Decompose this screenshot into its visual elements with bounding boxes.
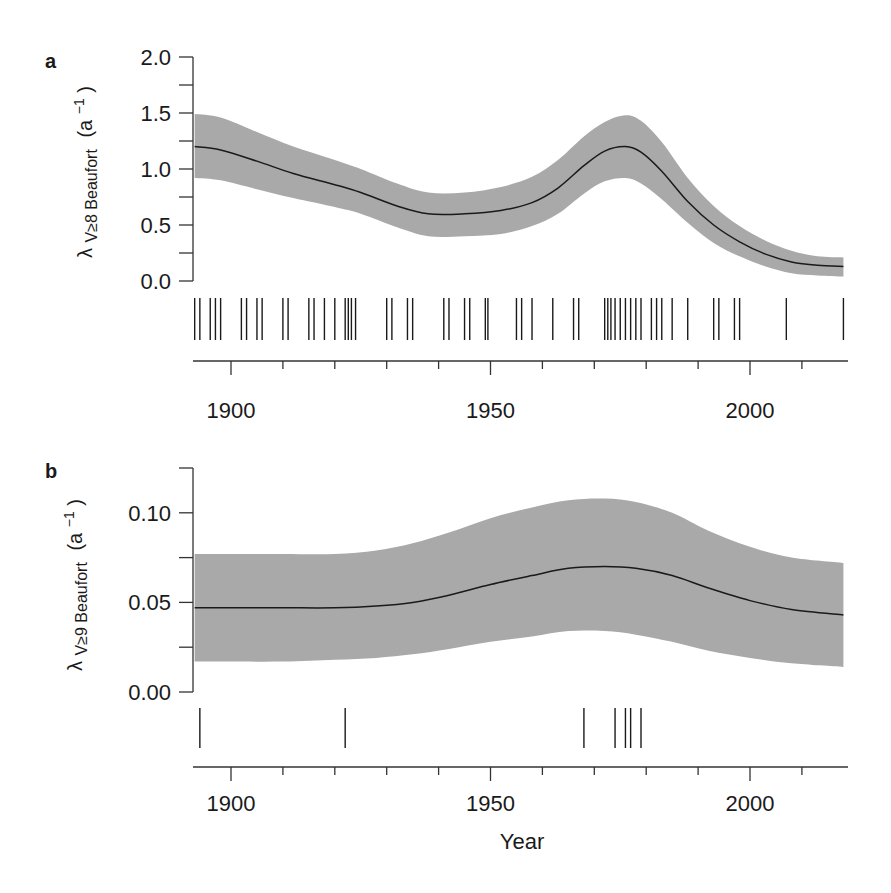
panel-a-y-axis-label: λ V≥8 Beaufort (a −1 ) xyxy=(66,86,101,258)
panel-a: a λ V≥8 Beaufort (a −1 ) 0.00.51.01.52.0… xyxy=(45,45,848,423)
figure: a λ V≥8 Beaufort (a −1 ) 0.00.51.01.52.0… xyxy=(0,0,891,893)
panel-b: b λ V≥9 Beaufort (a −1 ) 0.000.050.10190… xyxy=(45,460,848,854)
ylabel-units-close: ) xyxy=(64,499,86,506)
x-tick-label: 2000 xyxy=(726,791,775,816)
x-tick-label: 1900 xyxy=(207,791,256,816)
panel-b-y-axis-label: λ V≥9 Beaufort (a −1 ) xyxy=(56,499,91,671)
event-rug xyxy=(200,708,641,748)
x-tick-label: 1900 xyxy=(207,398,256,423)
panel-b-label: b xyxy=(45,460,57,482)
y-axis: 0.000.050.10 xyxy=(128,468,193,705)
x-axis-title: Year xyxy=(500,829,544,854)
x-axis: 190019502000 xyxy=(193,361,848,423)
event-rug xyxy=(195,298,844,340)
y-tick-label: 1.0 xyxy=(140,157,171,182)
y-tick-label: 0.05 xyxy=(128,590,171,615)
panel-a-label: a xyxy=(45,50,57,72)
confidence-band xyxy=(195,498,844,667)
ylabel-subscript: V≥9 Beaufort xyxy=(73,562,90,656)
panel-b-plot-area: 0.000.050.10190019502000 xyxy=(128,468,848,816)
x-axis: 190019502000 xyxy=(193,767,848,816)
ylabel-units-exp: −1 xyxy=(71,98,87,114)
x-tick-label: 2000 xyxy=(726,398,775,423)
svg-text:λ V≥9 Beaufort: λ V≥9 Beaufort (a −1 ) xyxy=(56,499,91,671)
x-tick-label: 1950 xyxy=(466,791,515,816)
y-tick-label: 2.0 xyxy=(140,45,171,70)
y-tick-label: 0.10 xyxy=(128,501,171,526)
y-tick-label: 0.0 xyxy=(140,269,171,294)
lambda-hat-symbol: λ xyxy=(74,248,96,258)
x-tick-label: 1950 xyxy=(466,398,515,423)
panel-a-plot-area: 0.00.51.01.52.0190019502000 xyxy=(140,45,848,423)
ylabel-units-exp: −1 xyxy=(61,511,77,527)
y-tick-label: 0.5 xyxy=(140,213,171,238)
lambda-hat-symbol: λ xyxy=(64,661,86,671)
svg-text:λ V≥8 Beaufort: λ V≥8 Beaufort (a −1 ) xyxy=(66,86,101,258)
ylabel-units: (a xyxy=(64,532,86,551)
y-tick-label: 1.5 xyxy=(140,101,171,126)
ylabel-units: (a xyxy=(74,119,96,138)
y-tick-label: 0.00 xyxy=(128,680,171,705)
ylabel-subscript: V≥8 Beaufort xyxy=(83,149,100,243)
y-axis: 0.00.51.01.52.0 xyxy=(140,45,193,294)
ylabel-units-close: ) xyxy=(74,86,96,93)
confidence-band xyxy=(195,114,844,276)
